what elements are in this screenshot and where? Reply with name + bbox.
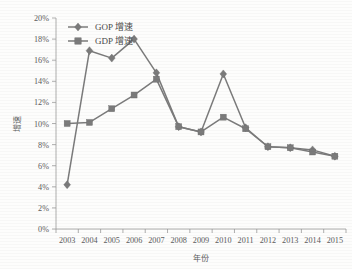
y-tick-label: 0% — [38, 225, 49, 234]
data-point-marker — [220, 70, 227, 78]
legend-label-2: GDP 增速 — [95, 35, 133, 46]
chart-legend: GOP 增速GDP 增速 — [68, 21, 133, 46]
line-chart: 0%2%4%6%8%10%12%14%16%18%20% 20032004200… — [0, 0, 352, 269]
x-tick-label: 2013 — [282, 236, 298, 245]
x-tick-label: 2011 — [238, 236, 254, 245]
x-tick-label: 2015 — [327, 236, 343, 245]
x-tick-label: 2007 — [148, 236, 164, 245]
data-point-marker — [198, 129, 204, 135]
plot-area — [64, 35, 339, 189]
y-tick-label: 12% — [34, 98, 49, 107]
x-tick-label: 2004 — [81, 236, 97, 245]
y-tick-label: 18% — [34, 35, 49, 44]
data-point-marker — [310, 149, 316, 155]
x-axis-ticks — [56, 229, 346, 233]
data-point-marker — [176, 124, 182, 130]
data-point-marker — [64, 181, 71, 189]
y-tick-label: 6% — [38, 162, 49, 171]
series-lines — [67, 39, 335, 185]
data-point-marker — [332, 153, 338, 159]
y-axis-tick-labels: 0%2%4%6%8%10%12%14%16%18%20% — [34, 14, 49, 234]
y-tick-label: 16% — [34, 56, 49, 65]
x-axis-tick-labels: 2003200420052006200720082009201020112012… — [59, 236, 343, 245]
y-tick-label: 10% — [34, 120, 49, 129]
data-point-marker — [86, 47, 93, 55]
legend-label-1: GOP 增速 — [95, 21, 133, 32]
data-point-marker — [287, 145, 293, 151]
data-point-marker — [243, 126, 249, 132]
y-axis-ticks — [52, 18, 56, 229]
x-tick-label: 2012 — [260, 236, 276, 245]
x-tick-label: 2009 — [193, 236, 209, 245]
x-axis: 2003200420052006200720082009201020112012… — [56, 229, 346, 245]
x-tick-label: 2003 — [59, 236, 75, 245]
data-point-marker — [220, 114, 226, 120]
y-axis: 0%2%4%6%8%10%12%14%16%18%20% — [34, 14, 56, 234]
legend-marker-square — [75, 38, 81, 44]
y-tick-label: 20% — [34, 14, 49, 23]
data-point-marker — [86, 119, 92, 125]
x-tick-label: 2008 — [171, 236, 187, 245]
x-tick-label: 2014 — [304, 236, 320, 245]
data-point-marker — [153, 76, 159, 82]
y-tick-label: 4% — [38, 183, 49, 192]
series-line-2 — [67, 79, 335, 156]
y-tick-label: 2% — [38, 204, 49, 213]
legend-marker-diamond — [75, 23, 82, 31]
data-point-marker — [64, 121, 70, 127]
y-axis-title: 增速 — [12, 116, 22, 132]
x-tick-label: 2005 — [104, 236, 120, 245]
y-tick-label: 8% — [38, 141, 49, 150]
data-point-marker — [109, 106, 115, 112]
x-tick-label: 2010 — [215, 236, 231, 245]
series-markers — [64, 35, 339, 189]
x-tick-label: 2006 — [126, 236, 142, 245]
data-point-marker — [131, 92, 137, 98]
x-axis-title: 年份 — [193, 253, 209, 263]
y-tick-label: 14% — [34, 77, 49, 86]
chart-container: 0%2%4%6%8%10%12%14%16%18%20% 20032004200… — [0, 0, 352, 269]
data-point-marker — [265, 144, 271, 150]
